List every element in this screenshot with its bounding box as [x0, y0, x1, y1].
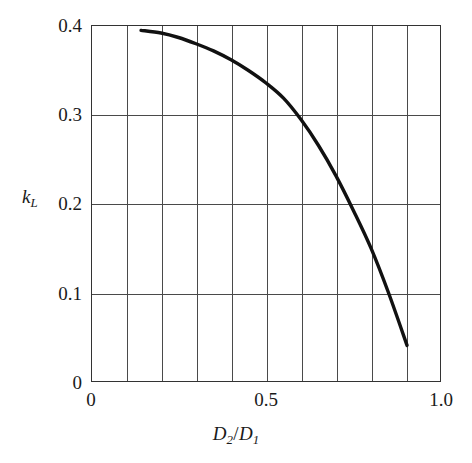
- chart-figure: 0.4 0.3 0.2 0.1 0 0 0.5 1.0 kL D2/D1: [0, 0, 472, 463]
- gridline-horizontal: [92, 294, 440, 295]
- plot-area: [91, 25, 441, 382]
- y-axis-title: kL: [22, 186, 38, 211]
- y-tick-label-0-3: 0.3: [34, 105, 82, 124]
- x-tick-label-0-5: 0.5: [254, 390, 278, 409]
- x-tick-label-0: 0: [86, 390, 96, 409]
- y-tick-label-0-1: 0.1: [34, 284, 82, 303]
- x-axis-title: D2/D1: [0, 423, 472, 448]
- gridline-horizontal: [92, 115, 440, 116]
- x-axis-title-numerator-base: D: [213, 423, 227, 444]
- gridline-horizontal: [92, 204, 440, 205]
- y-tick-label-0-4: 0.4: [34, 16, 82, 35]
- y-tick-label-0-2: 0.2: [34, 194, 82, 213]
- x-axis-title-denominator-base: D: [239, 423, 253, 444]
- y-axis-title-subscript: L: [30, 195, 37, 210]
- x-tick-label-1-0: 1.0: [429, 390, 453, 409]
- y-tick-label-0: 0: [34, 373, 82, 392]
- x-axis-title-denominator-subscript: 1: [253, 432, 259, 447]
